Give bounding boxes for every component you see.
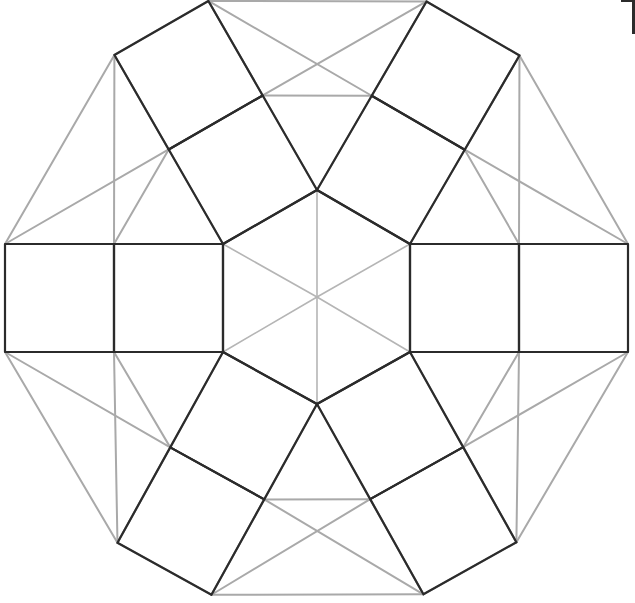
square-pair-southeast-inner xyxy=(169,95,317,244)
square-pair-northeast-outer xyxy=(519,244,628,352)
hexagon-spoke-4 xyxy=(223,297,317,352)
hexagon-spokes xyxy=(223,190,410,404)
square-pair-east-outer xyxy=(372,1,520,149)
square-pair-northwest-outer xyxy=(370,447,516,594)
square-pair-west-inner xyxy=(170,352,317,499)
square-pair-southwest-outer xyxy=(5,244,114,352)
tiling-figure xyxy=(0,0,635,603)
square-pair-west-outer xyxy=(117,447,264,594)
square-pair-east-inner xyxy=(317,96,465,244)
square-pair-southeast-outer xyxy=(114,1,262,150)
square-pair-northeast-inner xyxy=(410,244,519,352)
figure-canvas xyxy=(0,0,635,603)
hexagon-spoke-5 xyxy=(223,244,317,297)
hexagon-spoke-1 xyxy=(317,244,410,297)
square-pair-southwest-inner xyxy=(114,244,223,352)
square-pair-northwest-inner xyxy=(317,352,463,499)
hexagon-spoke-2 xyxy=(317,297,410,352)
top-right-corner-mark xyxy=(621,0,635,34)
